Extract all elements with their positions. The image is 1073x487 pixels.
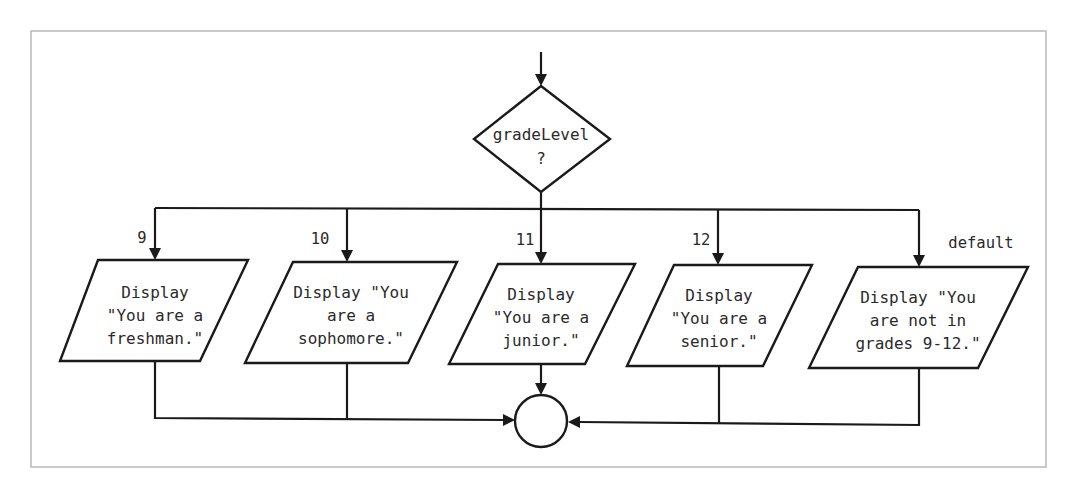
- output-text-line: Display: [121, 283, 189, 302]
- output-text-line: "You are a: [107, 306, 203, 325]
- decision-label-line1: gradeLevel: [493, 125, 589, 144]
- arrow-down-icon: [149, 248, 161, 260]
- case-label-9: 9: [137, 229, 146, 247]
- output-text-line: junior.": [502, 331, 579, 350]
- arrow-right-icon: [503, 414, 515, 426]
- arrow-down-icon: [341, 250, 353, 262]
- output-text-line: Display "You: [860, 288, 976, 307]
- arrow-down-icon: [535, 383, 547, 395]
- flowchart-stage: gradeLevel ? 9 Display "You are a freshm…: [0, 0, 1073, 487]
- branch-10: 10 Display "You are a sophomore.": [245, 208, 457, 419]
- output-text-line: "You are a: [671, 309, 767, 328]
- output-text-line: Display: [685, 286, 753, 305]
- output-text-line: "You are a: [493, 308, 589, 327]
- output-text-line: senior.": [680, 332, 757, 351]
- output-text-line: freshman.": [107, 329, 203, 348]
- branch-11: 11 Display "You are a junior.": [449, 231, 635, 395]
- branch-default: default Display "You are not in grades 9…: [568, 210, 1028, 428]
- case-label-11: 11: [516, 231, 535, 249]
- output-text-line: are not in: [870, 311, 966, 330]
- flowchart-canvas: gradeLevel ? 9 Display "You are a freshm…: [0, 0, 1073, 487]
- decision-label-line2: ?: [536, 149, 546, 168]
- connector-circle: [515, 395, 567, 447]
- case-label-12: 12: [692, 231, 711, 249]
- entry-arrow: [535, 52, 547, 86]
- branch-bar-line: [155, 208, 919, 210]
- output-text-line: sophomore.": [298, 329, 404, 348]
- output-text-line: Display "You: [293, 283, 409, 302]
- arrow-down-icon: [712, 253, 724, 265]
- branch-12: 12 Display "You are a senior.": [627, 209, 812, 423]
- output-text-line: grades 9-12.": [855, 334, 980, 353]
- case-label-default: default: [948, 234, 1013, 252]
- arrow-down-icon: [913, 255, 925, 267]
- case-label-10: 10: [311, 230, 330, 248]
- arrow-down-icon: [535, 252, 547, 264]
- decision-diamond: gradeLevel ?: [474, 86, 610, 192]
- output-text-line: Display: [507, 285, 575, 304]
- arrow-left-icon: [568, 416, 580, 428]
- output-text-line: are a: [327, 306, 375, 325]
